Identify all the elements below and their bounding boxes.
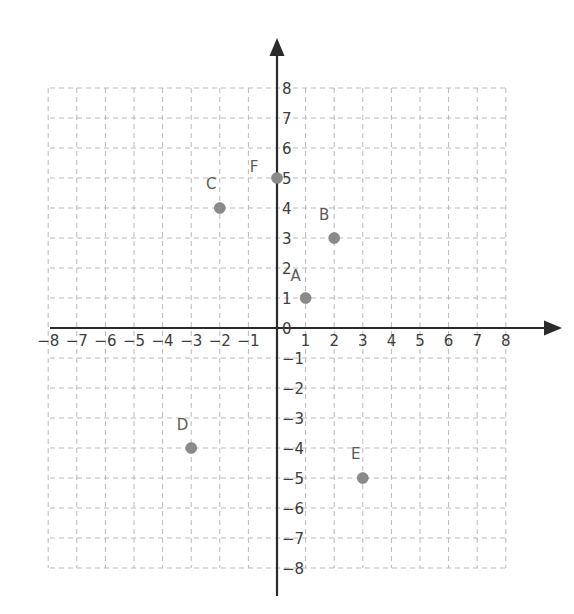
- plotted-point-a: [300, 293, 311, 304]
- y-axis-arrowhead-icon: [270, 38, 285, 56]
- x-tick-label: −2: [209, 332, 231, 350]
- x-axis-arrowhead-icon: [544, 321, 562, 336]
- y-tick-label: 8: [282, 80, 292, 98]
- point-label-c: C: [206, 175, 216, 193]
- x-tick-label: −6: [94, 332, 116, 350]
- y-tick-label: −8: [282, 560, 304, 578]
- y-tick-label: 7: [282, 110, 292, 128]
- plotted-points: ABCDEF: [177, 158, 368, 484]
- x-axis-tick-labels: −8−7−6−5−4−3−2−112345678: [37, 332, 510, 350]
- y-tick-label: −6: [282, 500, 304, 518]
- y-tick-label: −3: [282, 410, 304, 428]
- point-label-f: F: [250, 158, 259, 176]
- x-tick-label: 7: [472, 332, 482, 350]
- y-tick-label: 4: [282, 200, 292, 218]
- x-tick-label: −1: [237, 332, 259, 350]
- plotted-point-b: [329, 233, 340, 244]
- plotted-point-f: [272, 173, 283, 184]
- x-tick-label: 3: [358, 332, 368, 350]
- x-tick-label: −7: [66, 332, 88, 350]
- point-label-a: A: [290, 267, 301, 285]
- y-tick-label: −1: [282, 350, 304, 368]
- point-label-b: B: [319, 206, 329, 224]
- x-tick-label: 6: [444, 332, 454, 350]
- x-tick-label: 4: [387, 332, 397, 350]
- coordinate-plane-figure: −8−7−6−5−4−3−2−112345678 876543210−1−2−3…: [0, 0, 574, 614]
- y-tick-label: −4: [282, 440, 304, 458]
- y-tick-label: 6: [282, 140, 292, 158]
- y-tick-label: 3: [282, 230, 292, 248]
- x-tick-label: −4: [152, 332, 174, 350]
- y-tick-label: −7: [282, 530, 304, 548]
- y-tick-label: −5: [282, 470, 304, 488]
- x-tick-label: 5: [415, 332, 425, 350]
- plotted-point-d: [186, 443, 197, 454]
- plotted-point-e: [357, 473, 368, 484]
- plotted-point-c: [214, 203, 225, 214]
- x-tick-label: −5: [123, 332, 145, 350]
- y-tick-label: 0: [282, 320, 292, 338]
- y-tick-label: 5: [282, 170, 292, 188]
- x-tick-label: −8: [37, 332, 59, 350]
- coordinate-plane-svg: −8−7−6−5−4−3−2−112345678 876543210−1−2−3…: [0, 0, 574, 614]
- x-tick-label: 8: [501, 332, 511, 350]
- point-label-e: E: [351, 445, 360, 463]
- x-tick-label: −3: [180, 332, 202, 350]
- x-tick-label: 2: [329, 332, 339, 350]
- y-tick-label: −2: [282, 380, 304, 398]
- x-tick-label: 1: [301, 332, 311, 350]
- point-label-d: D: [177, 416, 189, 434]
- y-tick-label: 1: [282, 290, 292, 308]
